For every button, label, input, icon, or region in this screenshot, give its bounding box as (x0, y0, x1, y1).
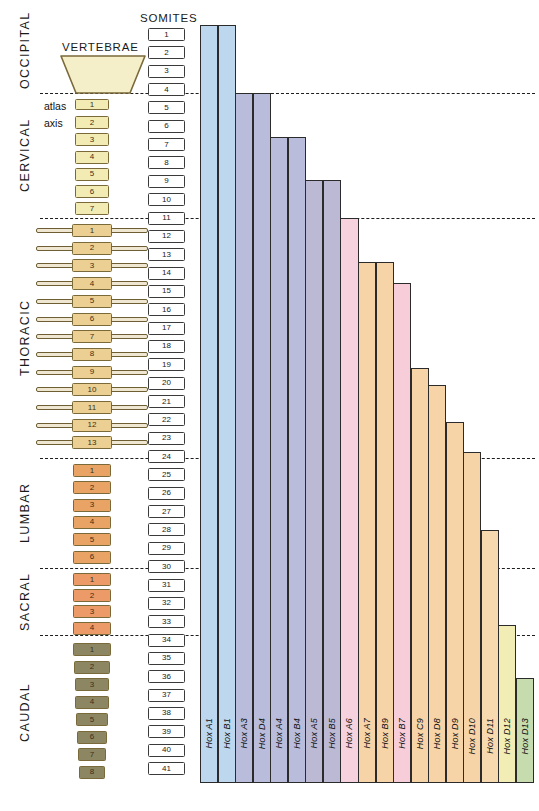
hox-column-hox-b5[interactable] (323, 180, 341, 783)
vertebra-cervical-5: 5 (75, 168, 109, 181)
hox-column-hox-b7[interactable] (393, 283, 411, 783)
rib-left (36, 423, 74, 428)
vertebra-thoracic-13: 13 (72, 436, 112, 449)
region-label-occipital: OCCIPITAL (18, 16, 32, 89)
somite-8: 8 (148, 156, 185, 169)
somite-36: 36 (148, 670, 185, 683)
somite-27: 27 (148, 505, 185, 518)
rib-left (36, 352, 74, 357)
somite-21: 21 (148, 395, 185, 408)
somite-32: 32 (148, 597, 185, 610)
hox-column-label-hox-d11: Hox D11 (485, 718, 495, 754)
rib-left (36, 334, 74, 339)
vertebra-caudal-5: 5 (76, 713, 108, 726)
vertebra-caudal-3: 3 (75, 678, 110, 691)
hox-column-label-hox-d10: Hox D10 (467, 718, 477, 754)
hox-column-label-hox-d9: Hox D9 (450, 718, 460, 749)
region-label-lumbar: LUMBAR (18, 462, 32, 564)
hox-column-hox-b4[interactable] (288, 137, 306, 783)
vertebra-lumbar-3: 3 (73, 499, 111, 512)
rib-right (110, 299, 148, 304)
region-label-thoracic: THORACIC (18, 222, 32, 454)
vertebra-caudal-2: 2 (74, 661, 110, 674)
somite-10: 10 (148, 193, 185, 206)
hox-column-label-hox-d8: Hox D8 (432, 718, 442, 749)
somite-26: 26 (148, 487, 185, 500)
vertebra-thoracic-2: 2 (72, 242, 112, 255)
vertebra-sacral-4: 4 (73, 622, 111, 635)
vertebra-caudal-8: 8 (79, 766, 106, 779)
vertebra-thoracic-5: 5 (72, 295, 112, 308)
rib-left (36, 317, 74, 322)
hox-column-hox-a3[interactable] (235, 93, 253, 783)
hox-column-hox-a7[interactable] (358, 262, 376, 783)
somite-7: 7 (148, 138, 185, 151)
rib-right (110, 370, 148, 375)
somite-37: 37 (148, 689, 185, 702)
hox-column-hox-a6[interactable] (340, 218, 358, 783)
vertebra-thoracic-8: 8 (72, 348, 112, 361)
vertebra-caudal-4: 4 (75, 696, 108, 709)
rib-right (110, 387, 148, 392)
vertebra-cervical-4: 4 (75, 151, 109, 164)
label-atlas: atlas (44, 100, 66, 112)
somite-22: 22 (148, 413, 185, 426)
somite-4: 4 (148, 83, 185, 96)
somite-17: 17 (148, 322, 185, 335)
rib-right (110, 263, 148, 268)
vertebra-thoracic-4: 4 (72, 277, 112, 290)
rib-left (36, 405, 74, 410)
hox-column-hox-b1[interactable] (218, 25, 236, 783)
hox-column-label-hox-a4: Hox A4 (274, 718, 284, 748)
rib-right (110, 246, 148, 251)
rib-left (36, 370, 74, 375)
hox-column-hox-a1[interactable] (200, 25, 218, 783)
rib-left (36, 228, 74, 233)
hox-column-label-hox-b4: Hox B4 (292, 718, 302, 749)
somite-31: 31 (148, 579, 185, 592)
vertebra-lumbar-1: 1 (73, 464, 111, 477)
somite-11: 11 (148, 212, 185, 225)
rib-right (110, 440, 148, 445)
vertebra-caudal-7: 7 (78, 748, 106, 761)
vertebra-thoracic-11: 11 (72, 401, 112, 414)
vertebra-caudal-6: 6 (77, 731, 107, 744)
vertebra-sacral-1: 1 (73, 573, 111, 586)
somite-9: 9 (148, 175, 185, 188)
rib-right (110, 405, 148, 410)
somite-39: 39 (148, 725, 185, 738)
vertebra-thoracic-10: 10 (72, 383, 112, 396)
vertebra-sacral-2: 2 (73, 589, 111, 602)
region-label-sacral: SACRAL (18, 572, 32, 631)
hox-column-label-hox-a3: Hox A3 (239, 718, 249, 748)
vertebra-caudal-1: 1 (73, 643, 111, 656)
hox-column-hox-d12[interactable] (498, 625, 516, 783)
hox-column-label-hox-c9: Hox C9 (415, 718, 425, 749)
hox-column-hox-b9[interactable] (376, 262, 394, 783)
somite-30: 30 (148, 560, 185, 573)
region-label-caudal: CAUDAL (18, 639, 32, 786)
somites-heading: SOMITES (140, 12, 197, 24)
vertebra-cervical-1: 1 (75, 99, 109, 110)
region-label-cervical: CERVICAL (18, 97, 32, 214)
rib-right (110, 228, 148, 233)
vertebra-thoracic-6: 6 (72, 313, 112, 326)
vertebra-cervical-6: 6 (75, 185, 109, 198)
vertebra-sacral-3: 3 (73, 605, 111, 618)
vertebra-thoracic-3: 3 (72, 259, 112, 272)
vertebrae-heading: VERTEBRAE (62, 41, 139, 53)
somite-18: 18 (148, 340, 185, 353)
hox-column-hox-a4[interactable] (270, 137, 288, 783)
hox-column-label-hox-b5: Hox B5 (327, 718, 337, 749)
hox-column-hox-a5[interactable] (305, 180, 323, 783)
somite-24: 24 (148, 450, 185, 463)
somite-35: 35 (148, 652, 185, 665)
hox-column-hox-d4[interactable] (253, 93, 271, 783)
somite-40: 40 (148, 744, 185, 757)
somite-34: 34 (148, 634, 185, 647)
rib-right (110, 423, 148, 428)
label-axis: axis (44, 117, 63, 129)
rib-left (36, 299, 74, 304)
vertebra-cervical-7: 7 (75, 202, 109, 215)
hox-column-label-hox-b1: Hox B1 (222, 718, 232, 749)
